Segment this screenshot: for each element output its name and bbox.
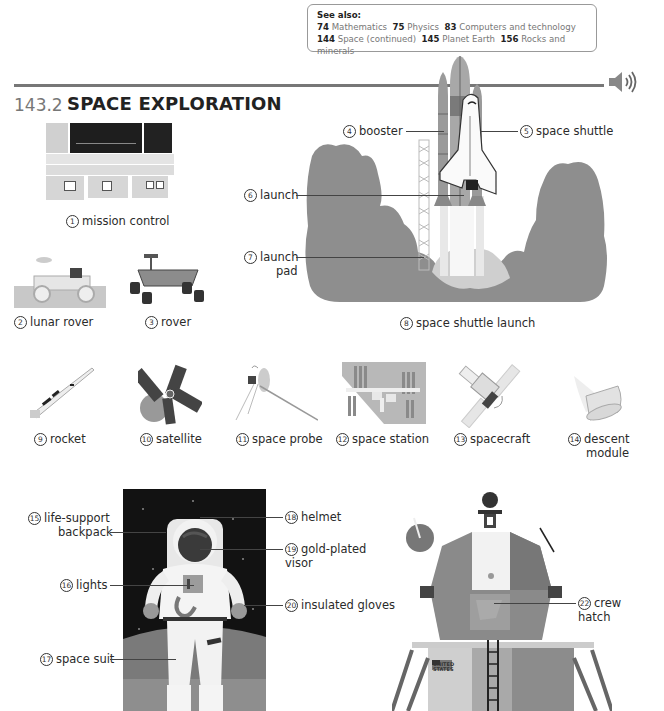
leader-line: [110, 532, 166, 533]
label-booster: 4booster: [343, 124, 403, 138]
spacecraft-illustration: [456, 362, 528, 428]
label-life-support-backpack-line2: backpack: [58, 525, 113, 539]
section-number: 143.2: [14, 95, 63, 115]
label-launch-pad: 7launch: [244, 250, 298, 264]
leader-line: [200, 549, 283, 550]
label-rocket: 9rocket: [34, 432, 86, 446]
section-title: SPACE EXPLORATION: [67, 93, 282, 114]
label-satellite: 10satellite: [140, 432, 202, 446]
space-probe-illustration: [234, 364, 318, 424]
see-also-row-1: 74 Mathematics 75 Physics 83 Computers a…: [317, 21, 587, 33]
label-space-shuttle: 5space shuttle: [520, 124, 613, 138]
see-also-box: See also: 74 Mathematics 75 Physics 83 C…: [307, 4, 597, 52]
leader-line: [480, 131, 518, 132]
leader-line: [244, 605, 283, 606]
leader-line: [110, 659, 176, 660]
label-lights: 16lights: [60, 578, 107, 592]
label-lunar-rover: 2lunar rover: [14, 315, 93, 329]
label-launch: 6launch: [244, 188, 298, 202]
see-also-link[interactable]: 75 Physics: [393, 22, 440, 32]
label-space-station: 12space station: [336, 432, 429, 446]
astronaut-illustration: [123, 489, 266, 711]
see-also-link[interactable]: 145 Planet Earth: [422, 34, 495, 44]
label-descent-module: 14descent: [568, 432, 630, 446]
label-life-support-backpack: 15life-support: [28, 511, 110, 525]
label-spacecraft: 13spacecraft: [454, 432, 530, 446]
label-space-shuttle-launch: 8space shuttle launch: [400, 316, 535, 330]
label-space-suit: 17space suit: [40, 652, 114, 666]
label-insulated-gloves: 20insulated gloves: [285, 598, 395, 612]
rocket-illustration: [28, 364, 98, 420]
see-also-row-2: 144 Space (continued) 145 Planet Earth 1…: [317, 33, 587, 57]
see-also-link[interactable]: 83 Computers and technology: [445, 22, 576, 32]
label-gold-plated-visor: 19gold-plated: [285, 542, 366, 556]
leader-line: [296, 257, 424, 258]
label-space-probe: 11space probe: [236, 432, 323, 446]
leader-line: [110, 585, 194, 586]
leader-line: [200, 517, 283, 518]
see-also-link[interactable]: 144 Space (continued): [317, 34, 416, 44]
leader-line: [494, 603, 576, 604]
label-crew-hatch-line2: hatch: [578, 610, 610, 624]
leader-line: [296, 195, 464, 196]
satellite-illustration: [138, 364, 202, 426]
label-helmet: 18helmet: [285, 510, 341, 524]
see-also-heading: See also:: [317, 9, 587, 21]
see-also-link[interactable]: 74 Mathematics: [317, 22, 387, 32]
descent-module-illustration: [568, 374, 624, 424]
leader-line: [406, 131, 444, 132]
space-shuttle-launch-illustration: [300, 56, 620, 314]
lunar-rover-illustration: [14, 252, 106, 308]
flag-text: UNITED STATES: [433, 662, 449, 672]
rover-illustration: [128, 252, 210, 308]
space-station-illustration: [342, 362, 426, 424]
label-descent-module-line2: module: [586, 446, 629, 460]
label-launch-pad-line2: pad: [276, 264, 298, 278]
mission-control-illustration: [46, 123, 174, 201]
label-rover: 3rover: [145, 315, 191, 329]
label-crew-hatch: 22crew: [578, 596, 621, 610]
label-mission-control: 1mission control: [66, 214, 169, 228]
label-gold-plated-visor-line2: visor: [285, 556, 313, 570]
